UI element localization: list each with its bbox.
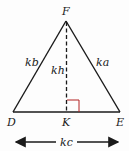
side-label-kc: kc: [60, 136, 73, 149]
vertex-label-D: D: [6, 116, 16, 129]
side-label-kb: kb: [25, 56, 39, 69]
similar-triangle-diagram: F D K E kb kh ka kc: [0, 0, 129, 151]
triangle-figure: F D K E kb kh ka kc: [0, 0, 129, 151]
side-label-ka: ka: [96, 56, 109, 69]
vertex-label-F: F: [61, 5, 70, 18]
right-angle-marker: [67, 100, 79, 112]
vertex-label-E: E: [115, 116, 124, 129]
side-FE: [66, 21, 120, 112]
side-label-kh: kh: [51, 64, 65, 77]
vertex-label-K: K: [61, 116, 71, 129]
